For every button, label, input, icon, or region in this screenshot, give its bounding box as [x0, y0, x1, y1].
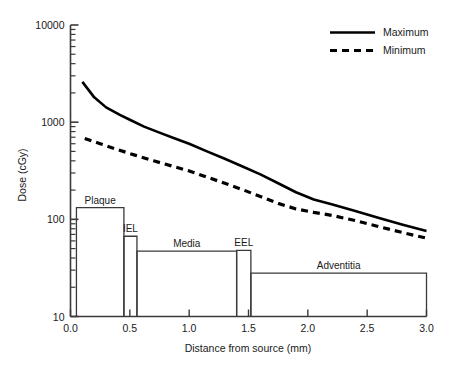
y-tick-label: 1000 [41, 116, 65, 128]
x-axis-title: Distance from source (mm) [185, 342, 312, 354]
legend-entry-minimum: Minimum [330, 44, 426, 56]
chart-legend: Maximum Minimum [330, 26, 429, 56]
tissue-layer-label: EEL [234, 237, 253, 248]
tissue-layer-label: IEL [123, 223, 138, 234]
y-tick-label: 100 [47, 213, 65, 225]
legend-label-minimum: Minimum [383, 44, 426, 56]
dose-curves [82, 82, 426, 238]
x-tick-label: 3.0 [419, 322, 434, 334]
tissue-layer-labels: PlaqueIELMediaEELAdventitia [85, 195, 361, 271]
y-axis-title: Dose (cGy) [16, 148, 28, 201]
x-tick-label: 1.5 [241, 322, 256, 334]
dose-distance-chart: 10100100010000 0.00.51.01.52.02.53.0 Pla… [0, 0, 450, 373]
tissue-layer-label: Adventitia [317, 260, 361, 271]
tissue-layer-label: Plaque [85, 195, 117, 206]
x-tick-label: 2.0 [301, 322, 316, 334]
chart-canvas: 10100100010000 0.00.51.01.52.02.53.0 Pla… [0, 0, 450, 373]
y-axis-ticks [71, 25, 79, 317]
x-tick-label: 0.5 [123, 322, 138, 334]
tissue-layer-box [237, 250, 251, 316]
y-axis-tick-labels: 10100100010000 [35, 19, 64, 323]
tissue-layer-box [137, 251, 237, 316]
tissue-layer-label: Media [173, 238, 201, 249]
tissue-layer-box [251, 273, 427, 316]
y-tick-label: 10000 [35, 19, 64, 31]
x-axis-tick-labels: 0.00.51.01.52.02.53.0 [63, 322, 434, 334]
legend-entry-maximum: Maximum [330, 26, 429, 38]
tissue-layer-box [76, 208, 123, 317]
x-tick-label: 0.0 [63, 322, 78, 334]
x-tick-label: 1.0 [182, 322, 197, 334]
legend-label-maximum: Maximum [383, 26, 429, 38]
tissue-layer-box [124, 236, 137, 316]
x-tick-label: 2.5 [360, 322, 375, 334]
